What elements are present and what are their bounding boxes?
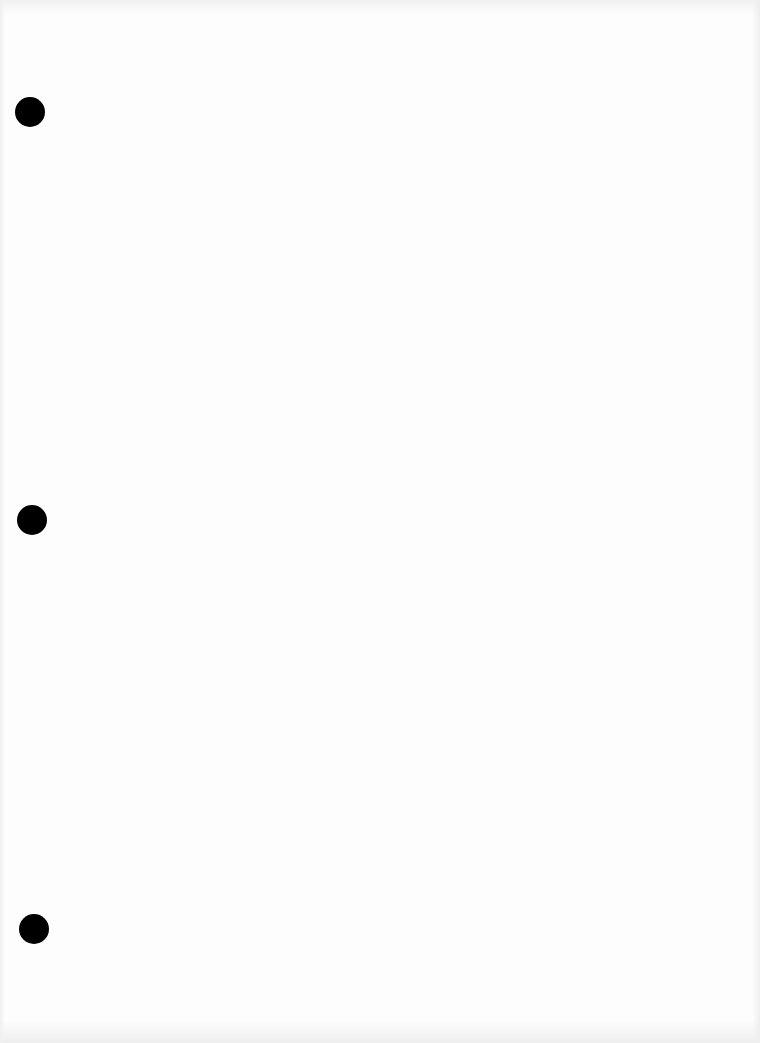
scan-edge-top	[0, 0, 760, 14]
blank-page	[0, 0, 760, 1043]
scan-edge-bottom	[0, 1021, 760, 1043]
punch-hole-top	[15, 97, 45, 127]
scan-edge-right	[752, 0, 760, 1043]
punch-hole-middle	[17, 505, 47, 535]
scan-edge-left	[0, 0, 5, 1043]
punch-hole-bottom	[19, 914, 49, 944]
